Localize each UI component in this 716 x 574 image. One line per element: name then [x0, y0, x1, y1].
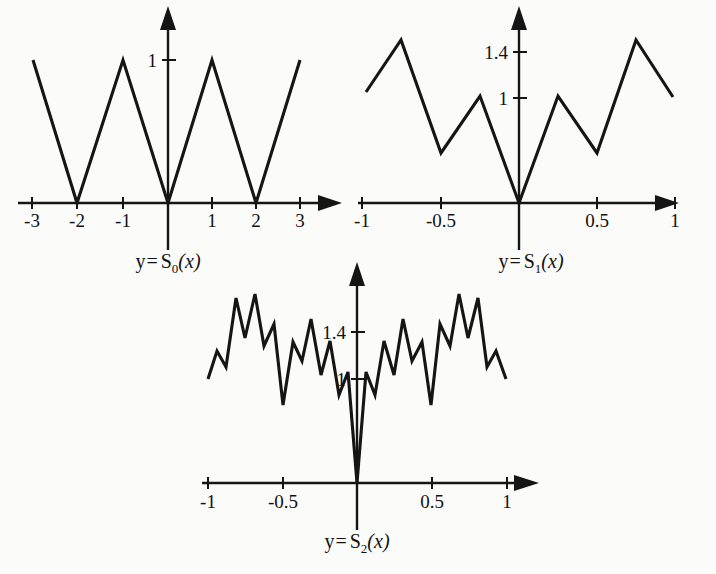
x-tick-label: 1 [670, 210, 680, 231]
x-tick-label: -1 [115, 210, 131, 231]
y-axis-arrowhead-s0 [160, 6, 176, 30]
x-tick-label: -1 [354, 210, 370, 231]
caption-y: y [324, 530, 334, 553]
figure-canvas: -3 -2 -1 1 2 3 1 y=S0(x) [0, 0, 716, 574]
chart-panel-s0: -3 -2 -1 1 2 3 1 y=S0(x) [0, 0, 358, 280]
x-tick-label: -1 [200, 491, 216, 512]
y-tick-label: 1.4 [322, 322, 346, 343]
y-axis-arrowhead-s2 [349, 262, 365, 286]
x-tick-label: 0.5 [585, 210, 609, 231]
y-tick-label: 1 [148, 50, 158, 71]
x-tick-label: -0.5 [426, 210, 456, 231]
chart-svg-s2: -1 -0.5 0.5 1 1.4 1 y=S2(x) [150, 262, 570, 574]
y-tick-label: 1 [499, 88, 509, 109]
x-axis-arrowhead-s2 [514, 475, 539, 491]
chart-svg-s0: -3 -2 -1 1 2 3 1 y=S0(x) [0, 0, 358, 280]
y-tick-label: 1 [337, 369, 347, 390]
curve-s0 [33, 60, 300, 203]
chart-panel-s2: -1 -0.5 0.5 1 1.4 1 y=S2(x) [150, 262, 570, 574]
x-tick-label: 3 [295, 210, 305, 231]
chart-svg-s1: -1 -0.5 0.5 1 1.4 1 y=S1(x) [356, 0, 716, 280]
x-tick-label: 2 [251, 210, 261, 231]
y-axis-arrowhead-s1 [511, 6, 527, 30]
chart-panel-s1: -1 -0.5 0.5 1 1.4 1 y=S1(x) [356, 0, 716, 280]
x-tick-label: 1 [502, 491, 512, 512]
x-tick-label: -0.5 [268, 491, 298, 512]
x-tick-label: 1 [207, 210, 217, 231]
y-tick-labels-s0: 1 [148, 50, 158, 71]
x-axis-arrowhead-s0 [318, 195, 342, 211]
y-tick-label: 1.4 [484, 42, 508, 63]
caption-y: y [135, 250, 145, 273]
caption-fn: S [350, 530, 361, 552]
caption-eq: = [335, 530, 346, 552]
x-tick-label: 0.5 [420, 491, 444, 512]
caption-s2: y=S2(x) [324, 530, 389, 556]
x-tick-labels-s0: -3 -2 -1 1 2 3 [24, 210, 305, 231]
x-tick-labels-s1: -1 -0.5 0.5 1 [354, 210, 680, 231]
x-tick-label: -2 [69, 210, 85, 231]
svg-text:y=S2(x): y=S2(x) [324, 530, 389, 556]
caption-arg: (x) [367, 530, 390, 553]
y-tick-labels-s1: 1.4 1 [484, 42, 508, 109]
x-tick-label: -3 [24, 210, 40, 231]
